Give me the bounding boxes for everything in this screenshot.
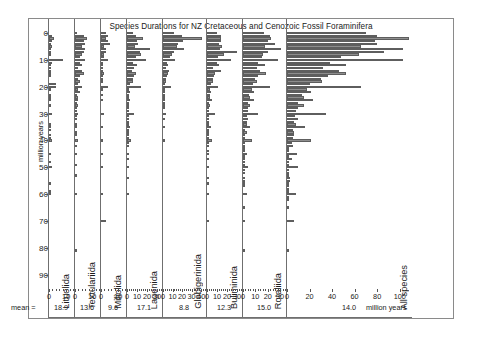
x-tick-mark-minor <box>233 289 234 291</box>
histogram-bar <box>49 182 51 184</box>
x-tick-label: 30 <box>188 292 196 301</box>
x-tick-mark-minor <box>197 289 198 291</box>
x-tick-label: 0 <box>47 292 51 301</box>
x-tick-label: 10 <box>62 292 70 301</box>
x-tick-mark-minor <box>101 289 102 291</box>
histogram-bar <box>101 80 103 82</box>
histogram-bar <box>49 166 52 168</box>
histogram-bar <box>49 139 52 141</box>
x-tick-mark-minor <box>225 289 226 291</box>
histogram-bar <box>127 153 129 155</box>
histogram-bar <box>127 86 141 88</box>
x-tick-label: 80 <box>373 292 381 301</box>
x-tick-mark-minor <box>260 289 261 291</box>
x-tick-mark-minor <box>147 289 148 291</box>
x-tick-mark-minor <box>59 289 60 291</box>
x-tick-mark-minor <box>188 289 189 291</box>
histogram-bar <box>127 158 129 160</box>
x-tick-mark-minor <box>283 289 284 291</box>
x-tick-mark-minor <box>169 289 170 291</box>
histogram-bar <box>243 220 245 222</box>
histogram-bar <box>49 153 51 155</box>
x-tick-mark-minor <box>227 289 228 291</box>
x-tick-mark-minor <box>75 289 76 291</box>
panel-mean-value: 18.9 <box>54 303 68 312</box>
x-tick-label: 20 <box>143 292 151 301</box>
x-tick-mark-minor <box>133 289 134 291</box>
x-tick-mark-minor <box>184 289 185 291</box>
x-tick-mark-minor <box>190 289 191 291</box>
x-tick-mark-minor <box>239 289 240 291</box>
panel-mean-value: 13.6 <box>80 303 94 312</box>
x-tick-mark-minor <box>111 289 112 291</box>
x-tick-mark-minor <box>270 289 271 291</box>
histogram-bar <box>49 88 51 90</box>
x-tick-mark-minor <box>263 289 264 291</box>
x-tick-mark-minor <box>129 289 130 291</box>
x-tick-mark-minor <box>203 289 204 291</box>
x-tick-mark-minor <box>85 289 86 291</box>
x-tick-mark-minor <box>248 289 249 291</box>
histogram-bar <box>243 185 245 187</box>
histogram-bar <box>127 177 129 179</box>
histogram-bar <box>49 129 51 131</box>
x-tick-mark-minor <box>89 289 90 291</box>
x-tick-label: 10 <box>168 292 176 301</box>
x-tick-mark-minor <box>237 289 238 291</box>
histogram-bar <box>287 220 294 222</box>
histogram-bar <box>207 182 209 184</box>
x-tick-mark-minor <box>70 289 71 291</box>
x-tick-mark-minor <box>115 289 116 291</box>
histogram-bar <box>207 177 209 179</box>
histogram-bar <box>101 88 103 90</box>
x-tick-mark-minor <box>163 289 164 291</box>
x-tick-label: 0 <box>99 292 103 301</box>
x-tick-label: 20 <box>305 292 313 301</box>
x-tick-mark-minor <box>149 289 150 291</box>
histogram-bar <box>101 113 104 115</box>
histogram-bar <box>163 113 166 115</box>
panel-miliolida: Miliolida <box>100 19 126 318</box>
panel-lagenida: Lagenida <box>126 19 162 318</box>
x-tick-mark-minor <box>122 289 123 291</box>
panel-mean-value: 15.0 <box>257 303 271 312</box>
x-tick-label: 10 <box>133 292 141 301</box>
x-tick-mark-minor <box>82 289 83 291</box>
histogram-bar <box>207 153 209 155</box>
x-tick-label: 0 <box>205 292 209 301</box>
panel-mean-value: 9.6 <box>108 303 118 312</box>
panel-buliminida: Buliminida <box>206 19 242 318</box>
x-tick-mark-minor <box>49 289 50 291</box>
histogram-bar <box>75 249 77 251</box>
x-tick-mark-minor <box>153 289 154 291</box>
histogram-bar <box>49 193 51 195</box>
x-tick-mark-minor <box>137 289 138 291</box>
x-tick-mark-minor <box>235 289 236 291</box>
x-tick-mark-minor <box>108 289 109 291</box>
mean-label: mean = <box>11 303 36 312</box>
x-tick-label: 60 <box>351 292 359 301</box>
x-tick-mark-minor <box>186 289 187 291</box>
x-tick-mark-minor <box>209 289 210 291</box>
histogram-bar <box>49 161 51 163</box>
histogram-bar <box>287 198 289 200</box>
histogram-bar <box>127 166 129 168</box>
panel-mean-value: 8.8 <box>179 303 189 312</box>
x-tick-label: 20 <box>264 292 272 301</box>
x-tick-label: 10 <box>114 292 122 301</box>
histogram-bar <box>75 193 77 195</box>
histogram-bar <box>49 53 51 55</box>
x-tick-mark-minor <box>229 289 230 291</box>
x-tick-mark-minor <box>167 289 168 291</box>
x-tick-mark-minor <box>78 289 79 291</box>
x-tick-mark-minor <box>223 289 224 291</box>
x-tick-mark-minor <box>174 289 175 291</box>
x-tick-mark-minor <box>104 289 105 291</box>
histogram-bar <box>75 153 77 155</box>
histogram-bar <box>207 166 209 168</box>
histogram-bar <box>101 139 103 141</box>
x-tick-mark-minor <box>176 289 177 291</box>
histogram-bar <box>49 113 52 115</box>
x-tick-label: 0 <box>285 292 289 301</box>
x-tick-mark-minor <box>155 289 156 291</box>
